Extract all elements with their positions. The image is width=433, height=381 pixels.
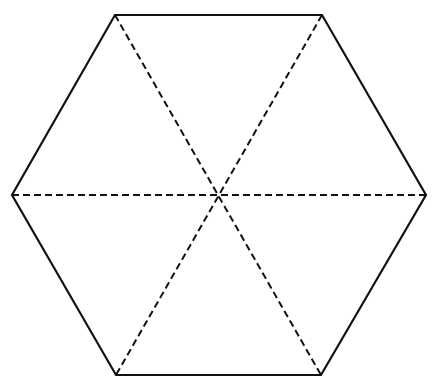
hexagon-diagram [0,0,433,381]
